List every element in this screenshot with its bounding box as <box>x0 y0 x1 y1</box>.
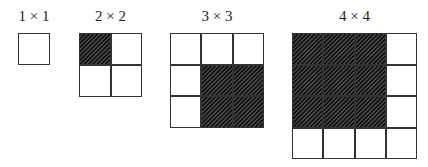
label-3x3: 3 × 3 <box>170 8 264 25</box>
grid-2x2 <box>79 33 142 97</box>
grid-cell <box>323 128 354 160</box>
grid-cell <box>355 33 386 65</box>
grid-cell <box>355 128 386 160</box>
grid-cell <box>18 33 50 65</box>
grid-cell <box>292 96 323 128</box>
grid-cell <box>386 96 417 128</box>
grid-cell <box>355 65 386 97</box>
grid-cell <box>79 65 111 97</box>
grid-cell <box>233 96 264 128</box>
grid-cell <box>323 65 354 97</box>
grid-cell <box>111 65 143 97</box>
grid-cell <box>79 33 111 65</box>
grid-cell <box>233 33 264 65</box>
grid-cell <box>201 96 232 128</box>
grid-cell <box>170 96 201 128</box>
grid-cell <box>233 65 264 97</box>
grid-cell <box>170 65 201 97</box>
grid-cell <box>292 128 323 160</box>
label-1x1: 1 × 1 <box>18 8 50 25</box>
grid-3x3 <box>170 33 264 128</box>
grid-cell <box>323 33 354 65</box>
grid-cell <box>292 33 323 65</box>
label-4x4: 4 × 4 <box>292 8 417 25</box>
grid-cell <box>201 33 232 65</box>
grid-cell <box>201 65 232 97</box>
grid-cell <box>292 65 323 97</box>
grid-cell <box>323 96 354 128</box>
grid-cell <box>386 128 417 160</box>
label-2x2: 2 × 2 <box>79 8 142 25</box>
grid-cell <box>355 96 386 128</box>
grid-cell <box>170 33 201 65</box>
grid-cell <box>386 65 417 97</box>
grid-cell <box>386 33 417 65</box>
grid-1x1 <box>18 33 50 65</box>
grid-4x4 <box>292 33 417 159</box>
grid-cell <box>111 33 143 65</box>
